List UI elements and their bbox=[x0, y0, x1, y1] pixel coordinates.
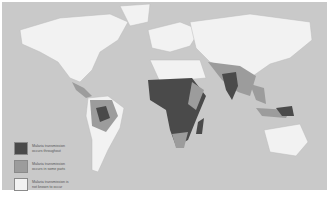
legend-item-throughout: Malaria transmission occurs throughout bbox=[14, 142, 72, 155]
southeast-asia bbox=[250, 84, 266, 104]
legend-swatch-mid bbox=[14, 160, 28, 173]
central-america bbox=[72, 82, 92, 98]
map-legend: Malaria transmission occurs throughout M… bbox=[14, 142, 72, 196]
world-malaria-map: Malaria transmission occurs throughout M… bbox=[0, 0, 329, 204]
legend-swatch-dark bbox=[14, 142, 28, 155]
north-america bbox=[20, 14, 128, 82]
legend-item-some-parts: Malaria transmission occurs in some part… bbox=[14, 160, 72, 173]
legend-item-not-known: Malaria transmission is not known to occ… bbox=[14, 178, 72, 191]
legend-label: Malaria transmission occurs in some part… bbox=[32, 162, 72, 170]
legend-label: Malaria transmission occurs throughout bbox=[32, 144, 72, 152]
legend-swatch-light bbox=[14, 178, 28, 191]
legend-label: Malaria transmission is not known to occ… bbox=[32, 180, 72, 188]
madagascar bbox=[196, 118, 204, 134]
australia bbox=[264, 124, 308, 156]
africa-south bbox=[172, 132, 188, 148]
asia bbox=[190, 14, 312, 78]
india bbox=[222, 72, 238, 100]
